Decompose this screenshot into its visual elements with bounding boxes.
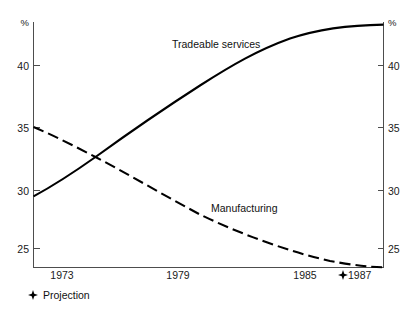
left-tick-label-30: 30 xyxy=(17,185,29,197)
series-line-manufacturing xyxy=(34,127,384,267)
right-axis-ticks: 40 35 30 25 % xyxy=(378,17,400,255)
right-tick-label-40: 40 xyxy=(388,60,400,72)
left-axis-ticks: 40 35 30 25 % xyxy=(17,17,39,255)
series-annotations: Tradeable services Manufacturing xyxy=(172,38,278,214)
series-line-tradeable-services xyxy=(34,25,384,197)
projection-star-icon xyxy=(338,270,348,280)
left-tick-label-35: 35 xyxy=(17,122,29,134)
line-chart: 40 35 30 25 % 40 35 30 25 % 1973 1979 1 xyxy=(0,0,415,311)
axis-group xyxy=(34,22,384,268)
right-tick-label-35: 35 xyxy=(388,122,400,134)
legend-projection-key: Projection xyxy=(28,289,90,301)
manufacturing-label: Manufacturing xyxy=(211,202,278,214)
tradeable-services-label: Tradeable services xyxy=(172,38,260,50)
legend-projection-label: Projection xyxy=(43,289,90,301)
right-axis-unit-label: % xyxy=(388,17,397,28)
left-tick-label-40: 40 xyxy=(17,60,29,72)
right-tick-label-30: 30 xyxy=(388,185,400,197)
x-axis-labels: 1973 1979 1985 1987 xyxy=(50,269,371,281)
x-tick-label-1987: 1987 xyxy=(348,269,372,281)
left-tick-label-25: 25 xyxy=(17,243,29,255)
chart-container: 40 35 30 25 % 40 35 30 25 % 1973 1979 1 xyxy=(0,0,415,311)
series-group xyxy=(34,25,384,268)
right-tick-label-25: 25 xyxy=(388,243,400,255)
x-tick-label-1985: 1985 xyxy=(293,269,317,281)
x-tick-label-1979: 1979 xyxy=(166,269,190,281)
left-axis-unit-label: % xyxy=(21,17,30,28)
legend-star-icon xyxy=(28,290,38,300)
x-tick-label-1973: 1973 xyxy=(50,269,74,281)
